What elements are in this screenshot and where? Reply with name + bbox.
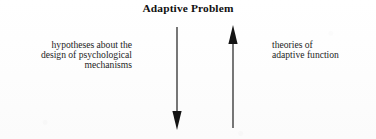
adaptive-problem-figure: Adaptive Problem hypotheses about the de… xyxy=(0,0,376,139)
upward-arrow-icon xyxy=(228,25,237,128)
downward-arrow-icon xyxy=(172,27,181,130)
upward-arrow-head xyxy=(228,25,237,44)
downward-arrow-head xyxy=(172,111,181,130)
arrow-group xyxy=(0,0,376,139)
